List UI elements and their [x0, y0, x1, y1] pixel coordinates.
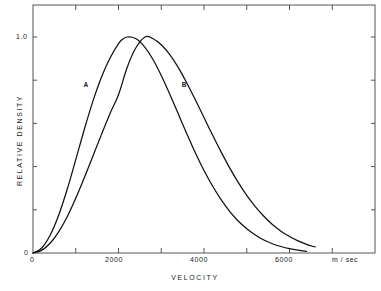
y-tick-label-0: 0: [24, 249, 29, 256]
distribution-plot: [0, 0, 381, 291]
y-tick-label-1.0: 1.0: [16, 33, 28, 40]
y-axis-title: RELATIVE DENSITY: [16, 81, 23, 201]
x-axis-title: VELOCITY: [115, 274, 275, 281]
x-tick-label-2000: 2000: [105, 256, 123, 263]
curve-label-a: A: [83, 81, 88, 88]
chart-background: [0, 0, 381, 291]
curve-label-b: B: [182, 81, 187, 88]
x-tick-label-4000: 4000: [190, 256, 208, 263]
x-axis-unit-label: m / sec: [332, 256, 358, 263]
chart-figure: RELATIVE DENSITY VELOCITY m / sec 0 1.0 …: [0, 0, 381, 291]
x-tick-label-6000: 6000: [275, 256, 293, 263]
x-tick-label-0: 0: [30, 256, 35, 263]
